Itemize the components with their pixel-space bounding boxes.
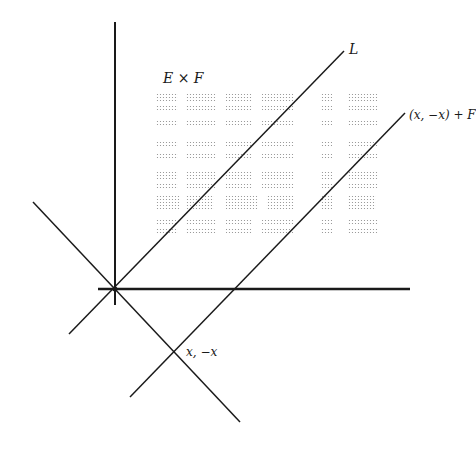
point-label: x, −x [186, 346, 217, 358]
translate-line-label: (x, −x) + F [409, 109, 476, 121]
origin-point [113, 287, 118, 292]
product-space-label: E × F [163, 71, 204, 85]
product-space-region [156, 93, 378, 235]
line-L-label: L [349, 42, 358, 56]
diagram-canvas [0, 0, 476, 449]
diagram: E × F L (x, −x) + F x, −x [0, 0, 476, 449]
